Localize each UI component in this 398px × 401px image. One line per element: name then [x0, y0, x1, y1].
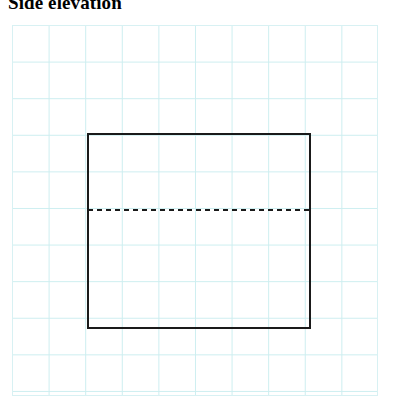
side-elevation-figure: Side elevation: [0, 0, 398, 401]
page-title: Side elevation: [8, 0, 122, 14]
graph-paper-grid: [12, 25, 378, 396]
figure-title-container: Side elevation: [0, 0, 398, 14]
grid-border: [12, 25, 378, 396]
